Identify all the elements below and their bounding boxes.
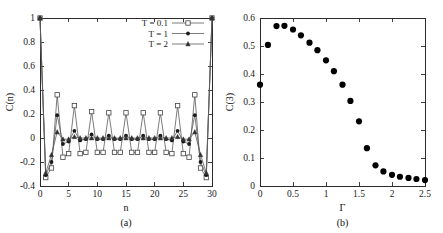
data-marker xyxy=(175,134,179,138)
legend-label: T = 2 xyxy=(149,39,168,49)
x-tick-label: 30 xyxy=(207,189,217,199)
y-tick-label: 0.8 xyxy=(23,37,35,47)
series-line xyxy=(40,18,212,173)
data-point xyxy=(356,118,362,124)
scatter-series xyxy=(257,23,428,183)
series-2 xyxy=(38,16,214,175)
x-tick-label: 1.5 xyxy=(353,189,365,199)
data-point xyxy=(380,168,386,174)
data-marker xyxy=(89,109,93,113)
data-marker xyxy=(193,113,197,117)
figure-container: 051015202530-0.4-0.200.20.40.60.81T = 0.… xyxy=(0,0,443,233)
data-point xyxy=(257,82,263,88)
data-point xyxy=(405,175,411,181)
data-marker xyxy=(55,93,59,97)
data-marker xyxy=(72,134,76,138)
x-tick-label: 10 xyxy=(93,189,103,199)
y-tick-label: 0 xyxy=(30,133,35,143)
data-marker xyxy=(78,151,82,155)
data-point xyxy=(265,42,271,48)
panel-a: 051015202530-0.4-0.200.20.40.60.81T = 0.… xyxy=(0,0,222,233)
y-tick-label: 0.5 xyxy=(243,41,255,51)
panel-label: (a) xyxy=(120,217,131,229)
data-point xyxy=(339,82,345,88)
data-marker xyxy=(187,155,191,159)
data-marker xyxy=(95,150,99,154)
legend: T = 0.1T = 1T = 2 xyxy=(142,18,204,49)
data-marker xyxy=(73,129,77,133)
data-marker xyxy=(112,150,116,154)
y-tick-label: 0.3 xyxy=(243,97,255,107)
data-point xyxy=(364,145,370,151)
data-marker xyxy=(158,111,162,115)
x-axis-title: Γ xyxy=(340,202,346,213)
x-tick-label: 2 xyxy=(390,189,395,199)
y-tick-label: 1 xyxy=(30,13,35,23)
data-marker xyxy=(107,111,111,115)
x-tick-label: 1 xyxy=(324,189,329,199)
data-point xyxy=(331,68,337,74)
panel-label: (b) xyxy=(337,217,349,229)
data-marker xyxy=(175,103,179,107)
data-point xyxy=(306,40,312,46)
x-tick-label: 0.5 xyxy=(287,189,299,199)
data-point xyxy=(273,23,279,29)
y-tick-label: -0.2 xyxy=(20,157,35,167)
legend-marker xyxy=(186,21,190,25)
legend-label: T = 1 xyxy=(149,29,168,39)
data-point xyxy=(389,172,395,178)
data-marker xyxy=(152,150,156,154)
data-marker xyxy=(181,151,185,155)
data-point xyxy=(298,32,304,38)
panel-b-svg: 00.511.522.500.10.20.30.40.50.6ΓC(3)(b) xyxy=(218,0,443,233)
series-line xyxy=(40,18,212,178)
data-marker xyxy=(141,111,145,115)
panel-a-svg: 051015202530-0.4-0.200.20.40.60.81T = 0.… xyxy=(0,0,222,233)
data-point xyxy=(281,23,287,29)
data-marker xyxy=(101,150,105,154)
y-tick-label: 0.4 xyxy=(23,85,35,95)
data-marker xyxy=(170,151,174,155)
data-point xyxy=(413,176,419,182)
data-marker xyxy=(193,93,197,97)
data-marker xyxy=(50,160,54,164)
data-point xyxy=(290,26,296,32)
data-marker xyxy=(61,142,65,146)
data-marker xyxy=(199,160,203,164)
data-marker xyxy=(135,150,139,154)
data-marker xyxy=(72,103,76,107)
x-tick-label: 15 xyxy=(121,189,131,199)
data-point xyxy=(397,174,403,180)
data-marker xyxy=(176,129,180,133)
data-point xyxy=(372,162,378,168)
series-line xyxy=(40,18,212,175)
data-point xyxy=(323,57,329,63)
y-tick-label: 0.4 xyxy=(243,69,255,79)
x-tick-label: 5 xyxy=(66,189,71,199)
y-tick-label: 0 xyxy=(250,181,255,191)
legend-label: T = 0.1 xyxy=(142,18,168,28)
y-axis-title: C(n) xyxy=(4,93,16,111)
data-marker xyxy=(55,113,59,117)
data-marker xyxy=(61,155,65,159)
series-1 xyxy=(38,16,214,177)
y-tick-label: 0.6 xyxy=(243,13,255,23)
x-axis-title: n xyxy=(124,202,129,213)
data-marker xyxy=(187,142,191,146)
data-point xyxy=(314,47,320,53)
data-marker xyxy=(164,150,168,154)
series-0 xyxy=(38,16,214,180)
x-tick-label: 2.5 xyxy=(419,189,431,199)
x-tick-label: 20 xyxy=(150,189,160,199)
plot-frame xyxy=(40,18,212,186)
legend-marker xyxy=(186,32,190,36)
y-tick-label: 0.6 xyxy=(23,61,35,71)
y-tick-label: 0.1 xyxy=(243,153,255,163)
y-tick-label: 0.2 xyxy=(243,125,255,135)
data-marker xyxy=(66,151,70,155)
panel-b: 00.511.522.500.10.20.30.40.50.6ΓC(3)(b) xyxy=(218,0,443,233)
data-point xyxy=(422,177,428,183)
y-axis-title: C(3) xyxy=(224,93,236,111)
x-tick-label: 0 xyxy=(258,189,263,199)
x-tick-label: 0 xyxy=(38,189,43,199)
